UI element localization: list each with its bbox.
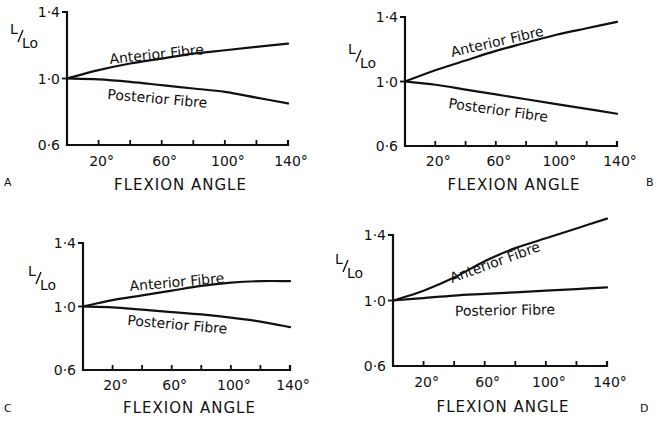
svg-text:L: L: [10, 21, 18, 37]
panel-letter-c: C: [4, 402, 12, 415]
y-tick-label: 1·0: [376, 74, 398, 90]
y-tick-label: 1·0: [54, 299, 76, 315]
svg-text:L: L: [335, 251, 343, 267]
x-tick-label: 140°: [276, 377, 310, 393]
x-tick-label: 60°: [475, 374, 500, 390]
anterior-fibre-label: Anterior Fibre: [109, 41, 205, 67]
y-tick-label: 0·6: [54, 362, 76, 378]
svg-text:L: L: [348, 41, 356, 57]
x-tick-label: 20°: [89, 153, 114, 169]
x-tick-label: 100°: [532, 374, 566, 390]
x-axis-title: FLEXION ANGLE: [448, 176, 581, 194]
y-tick-label: 0·6: [38, 137, 60, 153]
x-tick-label: 60°: [486, 153, 511, 169]
panel-letter-a: A: [4, 176, 12, 189]
y-tick-label: 0·6: [376, 138, 398, 154]
x-tick-label: 100°: [211, 153, 245, 169]
svg-text:Lo: Lo: [347, 265, 363, 281]
y-axis-title: LLo: [28, 263, 56, 293]
y-tick-label: 0·6: [364, 358, 386, 374]
y-axis-title: LLo: [335, 251, 363, 281]
svg-text:Lo: Lo: [360, 55, 376, 71]
x-axis-title: FLEXION ANGLE: [123, 399, 256, 417]
figure: 0·61·01·420°60°100°140°FLEXION ANGLELLoA…: [0, 0, 661, 421]
anterior-fibre-label: Anterior Fibre: [448, 238, 543, 285]
x-tick-label: 20°: [103, 377, 128, 393]
chart-panel-b: 0·61·01·420°60°100°140°FLEXION ANGLELLoA…: [348, 9, 637, 194]
x-tick-label: 100°: [217, 377, 251, 393]
y-tick-label: 1·4: [54, 235, 76, 251]
chart-panel-a: 0·61·01·420°60°100°140°FLEXION ANGLELLoA…: [10, 4, 308, 194]
svg-text:Lo: Lo: [40, 277, 56, 293]
x-axis-title: FLEXION ANGLE: [437, 398, 570, 416]
y-axis-title: LLo: [10, 21, 38, 51]
svg-text:L: L: [28, 263, 36, 279]
panel-letter-b: B: [646, 176, 654, 189]
chart-panel-c: 0·61·01·420°60°100°140°FLEXION ANGLELLoA…: [28, 235, 310, 417]
y-tick-label: 1·4: [38, 4, 60, 20]
y-tick-label: 1·4: [376, 9, 398, 25]
y-axis-title: LLo: [348, 41, 376, 71]
y-tick-label: 1·0: [38, 71, 60, 87]
panel-letter-d: D: [640, 402, 648, 415]
svg-text:Lo: Lo: [22, 35, 38, 51]
anterior-fibre-label: Anterior Fibre: [449, 23, 545, 60]
x-tick-label: 60°: [152, 153, 177, 169]
x-tick-label: 20°: [414, 374, 439, 390]
x-tick-label: 140°: [593, 374, 627, 390]
x-tick-label: 100°: [543, 153, 577, 169]
posterior-fibre-label: Posterior Fibre: [107, 86, 208, 111]
x-tick-label: 140°: [603, 153, 637, 169]
posterior-fibre-label: Posterior Fibre: [455, 301, 555, 319]
y-tick-label: 1·0: [364, 293, 386, 309]
x-axis-title: FLEXION ANGLE: [114, 176, 247, 194]
chart-panel-d: 0·61·01·420°60°100°140°FLEXION ANGLELLoA…: [335, 219, 627, 416]
x-tick-label: 20°: [426, 153, 451, 169]
y-tick-label: 1·4: [364, 227, 386, 243]
x-tick-label: 60°: [162, 377, 187, 393]
x-tick-label: 140°: [274, 153, 308, 169]
